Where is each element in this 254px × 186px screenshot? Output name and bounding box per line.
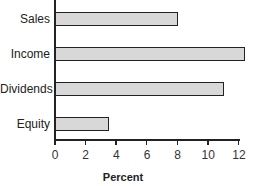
x-tick-label: 6: [144, 148, 151, 162]
x-tick-label: 12: [232, 148, 245, 162]
bar-sales: [55, 12, 178, 26]
category-label: Equity: [0, 117, 50, 131]
x-tick: [238, 139, 240, 145]
x-tick-label: 0: [52, 148, 59, 162]
x-tick: [177, 139, 179, 145]
x-tick: [207, 139, 209, 145]
x-tick-label: 2: [82, 148, 89, 162]
bar-dividends: [55, 82, 224, 96]
x-tick-label: 8: [174, 148, 181, 162]
x-tick: [146, 139, 148, 145]
x-tick: [85, 139, 87, 145]
x-tick-label: 4: [113, 148, 120, 162]
x-tick-label: 10: [202, 148, 215, 162]
category-label: Income: [0, 47, 50, 61]
category-label: Sales: [0, 12, 50, 26]
x-tick: [54, 139, 56, 145]
bar-equity: [55, 117, 109, 131]
x-tick: [115, 139, 117, 145]
bar-chart: 024681012 Percent SalesIncomeDividendsEq…: [0, 0, 254, 186]
x-axis-label: Percent: [103, 171, 143, 183]
category-label: Dividends: [0, 82, 50, 96]
bar-income: [55, 47, 245, 61]
